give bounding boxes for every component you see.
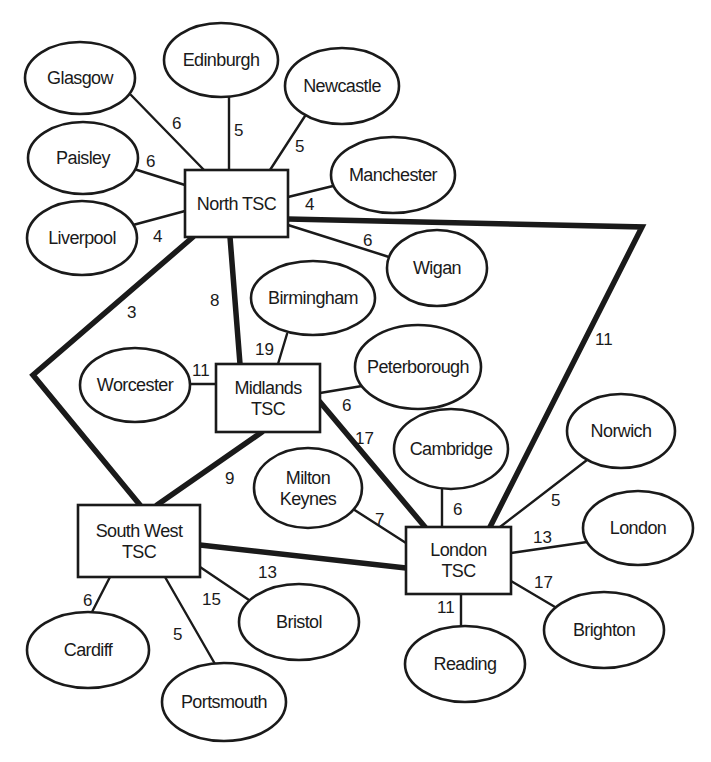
site-node-paisley: Paisley bbox=[28, 122, 138, 194]
link-weight-label: 8 bbox=[210, 291, 219, 310]
hub-node-southwest: South WestTSC bbox=[78, 505, 200, 577]
site-nodes: GlasgowEdinburghNewcastlePaisleyManchest… bbox=[25, 23, 693, 741]
node-label: Midlands bbox=[234, 378, 302, 398]
node-label: Liverpool bbox=[48, 228, 116, 248]
site-node-birmingham: Birmingham bbox=[251, 261, 375, 335]
link-weight-label: 5 bbox=[295, 137, 304, 156]
node-label: Wigan bbox=[413, 258, 461, 278]
link-north-tsc-to-liverpool bbox=[133, 211, 185, 225]
link-weight-label: 19 bbox=[255, 340, 274, 359]
node-label: South West bbox=[96, 521, 183, 541]
link-weight-label: 6 bbox=[172, 114, 181, 133]
link-south-west-tsc-to-london-tsc bbox=[200, 545, 406, 568]
node-label: TSC bbox=[251, 399, 286, 419]
link-weight-label: 15 bbox=[202, 590, 221, 609]
link-north-tsc-to-midlands-tsc bbox=[230, 237, 240, 364]
site-node-wigan: Wigan bbox=[387, 230, 487, 306]
site-node-brighton: Brighton bbox=[544, 592, 664, 668]
link-london-tsc-to-norwich bbox=[500, 460, 587, 527]
link-weight-label: 9 bbox=[225, 469, 234, 488]
link-weight-label: 5 bbox=[551, 491, 560, 510]
site-node-bristol: Bristol bbox=[239, 584, 359, 660]
node-label: Cambridge bbox=[410, 439, 493, 459]
link-weight-label: 13 bbox=[258, 563, 277, 582]
hub-node-north: North TSC bbox=[185, 170, 288, 237]
link-weight-label: 4 bbox=[305, 195, 314, 214]
node-label: Bristol bbox=[276, 612, 322, 632]
hub-node-london-tsc: LondonTSC bbox=[406, 527, 511, 594]
link-weight-label: 17 bbox=[355, 429, 374, 448]
link-weight-label: 11 bbox=[192, 361, 210, 380]
hub-node-midlands: MidlandsTSC bbox=[216, 364, 320, 432]
network-diagram: GlasgowEdinburghNewcastlePaisleyManchest… bbox=[0, 0, 711, 762]
link-weight-label: 3 bbox=[127, 303, 136, 322]
node-label: Birmingham bbox=[268, 288, 358, 308]
node-label: Brighton bbox=[573, 620, 635, 640]
link-weight-label: 6 bbox=[363, 231, 372, 250]
link-north-tsc-to-paisley bbox=[134, 169, 185, 185]
link-south-west-tsc-to-cardiff bbox=[92, 577, 110, 612]
node-label: Peterborough bbox=[367, 357, 469, 377]
site-node-glasgow: Glasgow bbox=[25, 42, 135, 114]
node-label: Paisley bbox=[56, 148, 110, 168]
node-label: Worcester bbox=[97, 375, 174, 395]
link-weight-label: 13 bbox=[533, 528, 552, 547]
link-weight-label: 11 bbox=[437, 598, 455, 617]
site-node-norwich: Norwich bbox=[567, 394, 675, 468]
site-node-manchester: Manchester bbox=[331, 137, 455, 213]
site-node-portsmouth: Portsmouth bbox=[162, 663, 286, 741]
site-node-edinburgh: Edinburgh bbox=[164, 23, 278, 97]
node-label: Norwich bbox=[591, 421, 652, 441]
site-node-reading: Reading bbox=[405, 626, 525, 702]
link-north-tsc-to-wigan bbox=[288, 225, 389, 257]
link-weight-label: 4 bbox=[153, 227, 162, 246]
link-north-tsc-to-glasgow bbox=[131, 95, 204, 170]
node-label: Reading bbox=[434, 654, 497, 674]
site-node-peterborough: Peterborough bbox=[355, 325, 481, 409]
link-weight-label: 6 bbox=[453, 500, 462, 519]
node-label: London bbox=[610, 518, 666, 538]
link-weight-label: 5 bbox=[173, 625, 182, 644]
link-midlands-tsc-to-south-west-tsc bbox=[157, 432, 262, 505]
node-label: North TSC bbox=[197, 194, 277, 214]
node-label: TSC bbox=[441, 561, 476, 581]
link-weight-label: 17 bbox=[534, 573, 553, 592]
node-label: Glasgow bbox=[47, 68, 114, 88]
link-midlands-tsc-to-birmingham bbox=[278, 334, 287, 364]
link-weight-label: 5 bbox=[234, 121, 243, 140]
link-weight-label: 6 bbox=[146, 152, 155, 171]
link-weight-label: 7 bbox=[375, 510, 384, 529]
link-midlands-tsc-to-peterborough bbox=[320, 386, 362, 393]
link-weight-label: 11 bbox=[595, 330, 613, 349]
site-node-newcastle: Newcastle bbox=[285, 48, 399, 124]
node-label: Newcastle bbox=[303, 76, 381, 96]
node-label: Milton bbox=[286, 468, 330, 488]
link-weight-label: 6 bbox=[342, 396, 351, 415]
node-label: London bbox=[430, 540, 486, 560]
site-node-worcester: Worcester bbox=[80, 348, 190, 422]
site-node-london: London bbox=[583, 491, 693, 565]
node-label: Portsmouth bbox=[181, 692, 267, 712]
site-node-cambridge: Cambridge bbox=[394, 409, 508, 489]
node-label: Keynes bbox=[280, 489, 337, 509]
site-node-cardiff: Cardiff bbox=[27, 612, 149, 688]
node-label: Edinburgh bbox=[183, 50, 260, 70]
node-label: TSC bbox=[122, 542, 157, 562]
site-node-milton-keynes: MiltonKeynes bbox=[254, 448, 362, 528]
node-label: Cardiff bbox=[64, 640, 114, 660]
node-label: Manchester bbox=[349, 165, 438, 185]
link-weight-label: 6 bbox=[83, 591, 92, 610]
site-node-liverpool: Liverpool bbox=[27, 201, 137, 275]
